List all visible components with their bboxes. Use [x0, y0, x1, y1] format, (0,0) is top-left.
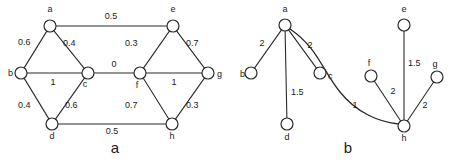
- edge-weight-b-a-b: 2: [259, 38, 264, 48]
- node-b-f[interactable]: [365, 70, 377, 82]
- edge-a-g-h: [175, 78, 204, 119]
- edge-weight-a-a-e: 0.5: [105, 11, 118, 21]
- node-a-a[interactable]: [44, 20, 56, 32]
- node-label-a-c: c: [83, 79, 88, 89]
- edge-a-f-h: [143, 78, 169, 119]
- node-b-a[interactable]: [279, 19, 291, 31]
- node-label-a-a: a: [47, 4, 52, 14]
- node-b-c[interactable]: [314, 67, 326, 79]
- node-b-e[interactable]: [398, 19, 410, 31]
- node-label-b-d: d: [284, 132, 289, 142]
- node-label-a-b: b: [8, 68, 13, 78]
- edge-weight-a-e-f: 0.3: [125, 38, 138, 48]
- node-b-d[interactable]: [281, 118, 293, 130]
- edge-b-g-h: [407, 82, 433, 121]
- node-label-a-g: g: [217, 69, 222, 79]
- edge-weight-a-g-h: 0.3: [186, 100, 199, 110]
- node-label-b-e: e: [401, 4, 406, 14]
- node-label-a-f: f: [136, 80, 139, 90]
- figure-container: abcdefghabcdefgh 0.50.60.410.40.600.30.7…: [0, 0, 451, 165]
- node-label-a-h: h: [169, 131, 174, 141]
- node-label-b-f: f: [368, 58, 371, 68]
- node-label-a-d: d: [49, 131, 54, 141]
- node-b-g[interactable]: [431, 71, 443, 83]
- node-a-d[interactable]: [46, 118, 58, 130]
- edge-weight-b-a-c: 2: [307, 40, 312, 50]
- edge-weight-a-d-h: 0.5: [106, 126, 119, 136]
- edge-weight-a-b-c: 1: [50, 77, 55, 87]
- panel-caption-b: b: [344, 139, 352, 156]
- edge-weight-a-f-g: 1: [171, 77, 176, 87]
- edge-a-e-f: [143, 31, 169, 68]
- edge-weight-b-f-h: 2: [390, 86, 395, 96]
- node-label-a-e: e: [170, 4, 175, 14]
- node-label-b-h: h: [401, 133, 406, 143]
- edge-weight-b-g-h: 2: [422, 100, 427, 110]
- edge-weight-b-e-h: 1.5: [408, 58, 421, 68]
- panel-captions-layer: ab: [111, 139, 352, 156]
- edge-b-f-h: [374, 81, 400, 121]
- edge-weight-b-a-d: 1.5: [291, 87, 304, 97]
- edge-a-b-d: [24, 78, 49, 119]
- node-label-b-c: c: [328, 71, 333, 81]
- edge-b-a-d: [285, 31, 287, 118]
- node-a-h[interactable]: [166, 118, 178, 130]
- edge-weight-a-a-b: 0.6: [18, 37, 31, 47]
- node-label-b-g: g: [432, 59, 437, 69]
- node-b-b[interactable]: [245, 67, 257, 79]
- node-a-c[interactable]: [82, 67, 94, 79]
- edge-b-a-b: [254, 30, 281, 68]
- node-a-f[interactable]: [134, 67, 146, 79]
- edge-weight-a-c-d: 0.6: [65, 100, 78, 110]
- edge-weight-a-e-g: 0.7: [186, 38, 199, 48]
- node-a-e[interactable]: [167, 20, 179, 32]
- edge-weight-a-f-h: 0.7: [125, 100, 138, 110]
- node-label-b-a: a: [282, 4, 287, 14]
- edge-a-c-d: [55, 78, 84, 119]
- node-b-h[interactable]: [398, 120, 410, 132]
- node-a-b[interactable]: [15, 67, 27, 79]
- graph-figure-svg: abcdefghabcdefgh 0.50.60.410.40.600.30.7…: [0, 0, 451, 165]
- edge-weight-b-a-h: 1: [352, 100, 357, 110]
- node-label-b-b: b: [240, 69, 245, 79]
- edge-weight-a-a-c: 0.4: [63, 38, 76, 48]
- node-a-g[interactable]: [202, 67, 214, 79]
- panel-caption-a: a: [111, 139, 120, 156]
- edge-weight-a-c-f: 0: [111, 59, 116, 69]
- edge-a-a-c: [54, 31, 84, 69]
- edge-a-e-g: [177, 31, 205, 68]
- edge-b-a-h: [290, 29, 399, 124]
- edge-weight-a-b-d: 0.4: [18, 100, 31, 110]
